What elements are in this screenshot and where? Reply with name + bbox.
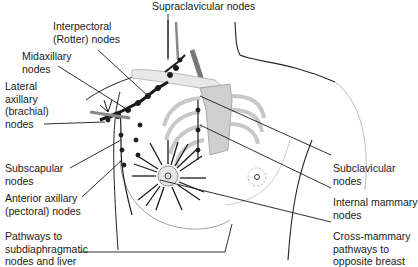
label-subclavicular-nodes: Subclavicular nodes [333, 162, 395, 187]
right-breast-outline [225, 140, 290, 205]
label-internal-mammary-nodes: Internal mammary nodes [333, 196, 418, 221]
right-nipple [255, 175, 260, 180]
leader-lines [44, 14, 331, 252]
label-anterior-axillary-nodes: Anterior axillary (pectoral) nodes [5, 192, 81, 217]
label-subdiaphragmatic-pathways: Pathways to subdiaphragmatic nodes and l… [5, 230, 88, 267]
label-subscapular-nodes: Subscapular nodes [5, 162, 63, 187]
lymphatic-diagram: Supraclavicular nodes Interpectoral (Rot… [0, 0, 418, 267]
clavicle [132, 70, 222, 88]
right-neck-shoulder-outline [235, 22, 335, 82]
jugular-vein [176, 22, 178, 60]
right-areola [248, 168, 266, 186]
sternum [200, 84, 232, 155]
right-torso-outline [288, 140, 312, 260]
label-interpectoral-nodes: Interpectoral (Rotter) nodes [53, 20, 120, 45]
label-supraclavicular-nodes: Supraclavicular nodes [152, 0, 255, 13]
label-cross-mammary-pathways: Cross-mammary pathways to opposite breas… [333, 230, 411, 267]
label-midaxillary-nodes: Midaxillary nodes [22, 50, 72, 75]
label-lateral-axillary-nodes: Lateral axillary (brachial) nodes [5, 80, 49, 130]
